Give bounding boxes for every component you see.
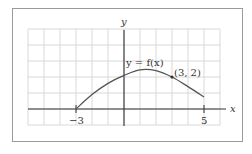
point-label: (3, 2) [174,67,201,78]
y-axis-label: y [120,16,127,27]
tick-label-right: 5 [201,115,207,126]
curve-label: y = f(x) [125,57,164,68]
tick-label-left: −3 [69,115,84,126]
chart-svg: y x y = f(x) (3, 2) −3 5 [0,0,252,154]
x-axis-label: x [230,103,236,114]
